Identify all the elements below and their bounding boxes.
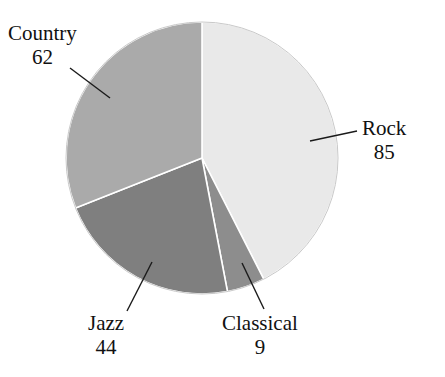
slice-label-jazz-value: 44 bbox=[88, 336, 124, 360]
pie-slices bbox=[66, 22, 338, 294]
slice-label-classical-value: 9 bbox=[222, 336, 298, 360]
slice-label-classical: Classical 9 bbox=[222, 312, 298, 359]
pie-chart-figure: Country 62 Rock 85 Jazz 44 Classical 9 bbox=[0, 0, 445, 377]
slice-label-classical-name: Classical bbox=[222, 312, 298, 336]
slice-label-rock-name: Rock bbox=[362, 117, 406, 141]
slice-label-rock: Rock 85 bbox=[362, 117, 406, 164]
slice-label-jazz: Jazz 44 bbox=[88, 312, 124, 359]
slice-label-jazz-name: Jazz bbox=[88, 312, 124, 336]
slice-label-country: Country 62 bbox=[8, 22, 77, 69]
slice-label-rock-value: 85 bbox=[362, 141, 406, 165]
slice-label-country-value: 62 bbox=[8, 46, 77, 70]
slice-label-country-name: Country bbox=[8, 22, 77, 46]
